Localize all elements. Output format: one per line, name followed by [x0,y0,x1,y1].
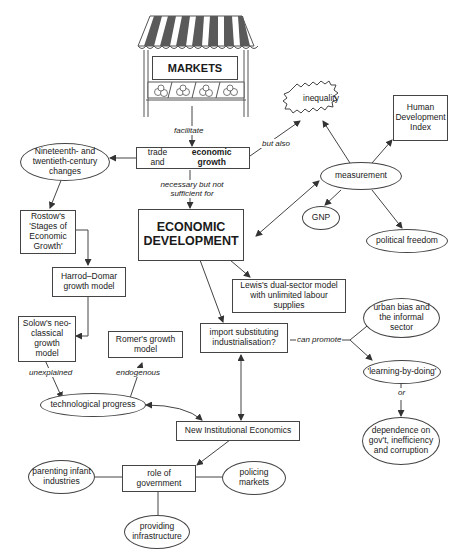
node-trade-economic-growth: trade and economic growth [136,147,250,169]
node-urban-bias: urban bias and the informal sector [363,298,440,338]
node-policing-markets: policing markets [222,461,286,495]
node-romer: Romer's growth model [108,331,183,358]
node-human-development-index: Human Development Index [393,95,448,141]
markets-sign: MARKETS [152,56,238,80]
node-learning-by-doing: 'learning-by-doing' [363,360,441,384]
node-solow: Solow's neo-classical growth model [18,316,76,362]
node-technological-progress: technological progress [40,393,146,417]
economic-growth-text: economic growth [177,148,246,168]
node-new-institutional-economics: New Institutional Economics [176,421,300,441]
edge-label-necessary: necessary but not sufficient for [155,180,229,198]
node-role-of-government: role of government [122,465,196,492]
node-economic-development: ECONOMIC DEVELOPMENT [138,209,244,261]
node-harrod-domar: Harrod–Domar growth model [52,267,126,297]
edge-label-or: or [397,388,406,397]
node-inequality: inequality [297,91,345,107]
node-rostow: Rostow's 'Stages of Economic Growth' [20,210,76,254]
trade-text: trade and [140,148,175,168]
node-nineteenth-century-changes: Nineteenth- and twentieth-century change… [20,143,110,181]
node-political-freedom: political freedom [366,229,448,253]
edge-label-unexplained: unexplained [28,368,73,377]
node-lewis-model: Lewis's dual-sector model with unlimited… [232,279,346,313]
edge-label-facilitate: facilitate [173,126,204,135]
edge-label-can-promote: can promote [296,335,342,344]
node-providing-infrastructure: providing infrastructure [124,515,190,549]
edge-label-endogenous: endogenous [115,368,161,377]
node-dependence-on-govt: dependence on gov't, inefficiency and co… [362,417,440,465]
node-measurement: measurement [320,162,402,190]
node-parenting-infant-industries: parenting infant industries [28,460,95,494]
node-import-substituting: import substituting industrialisation? [200,323,288,353]
node-gnp: GNP [302,206,340,230]
edge-label-but-also: but also [261,139,291,148]
